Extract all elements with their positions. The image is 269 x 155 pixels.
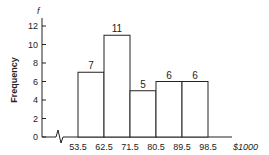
x-tick-label: 98.5	[199, 142, 217, 152]
y-axis-label: Frequency	[9, 57, 19, 103]
y-axis: f 024681012	[28, 6, 46, 142]
histogram-bar	[182, 82, 208, 138]
bar-value-label: 7	[88, 60, 94, 71]
y-tick-label: 12	[28, 21, 38, 31]
y-tick-label: 2	[33, 114, 38, 124]
bars: 711566	[78, 23, 208, 137]
histogram-bar	[104, 35, 130, 137]
x-tick-label: 62.5	[95, 142, 113, 152]
x-tick-label: 89.5	[173, 142, 191, 152]
bar-value-label: 11	[112, 23, 123, 34]
y-tick-label: 8	[33, 58, 38, 68]
y-axis-symbol: f	[37, 6, 41, 16]
x-tick-label: 71.5	[121, 142, 139, 152]
histogram-bar	[78, 72, 104, 137]
histogram-bar	[130, 91, 156, 137]
y-tick-label: 0	[33, 132, 38, 142]
y-tick-label: 4	[33, 95, 38, 105]
histogram-bar	[156, 82, 182, 138]
x-axis-unit-label: $1000	[232, 142, 258, 152]
y-tick-label: 6	[33, 77, 38, 87]
bar-value-label: 6	[166, 70, 172, 81]
histogram-chart: f 024681012 Frequency 53.562.571.580.589…	[0, 0, 269, 155]
bar-value-label: 5	[140, 79, 146, 90]
x-tick-label: 80.5	[147, 142, 165, 152]
bar-value-label: 6	[192, 70, 198, 81]
y-tick-label: 10	[28, 40, 38, 50]
x-tick-label: 53.5	[69, 142, 87, 152]
